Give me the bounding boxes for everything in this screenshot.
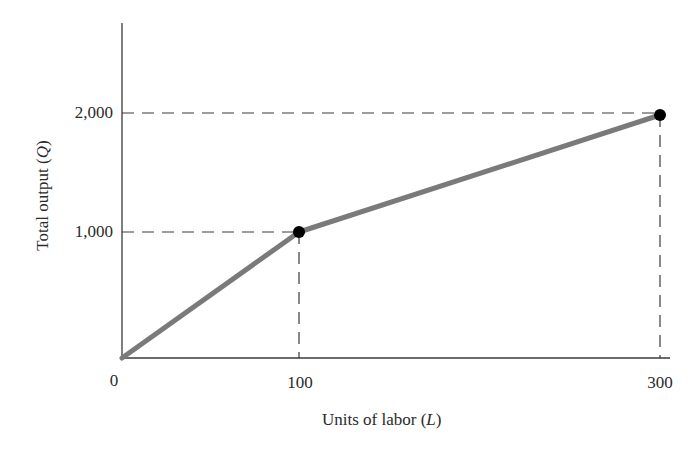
x-tick-300: 300 [630,374,690,391]
y-axis-title-var: Q [33,146,52,158]
y-axis-title-text: Total output ( [33,158,52,250]
x-axis-title: Units of labor (L) [322,411,441,428]
y-axis-title-close: ) [33,140,52,146]
data-point-300-2000 [654,109,666,121]
x-tick-100: 100 [270,374,330,391]
y-tick-2000: 2,000 [33,104,113,121]
x-axis-title-var: L [426,410,435,429]
x-axis-title-text: Units of labor ( [322,410,426,429]
x-tick-0: 0 [84,372,144,389]
total-output-curve [122,115,660,358]
x-axis-title-close: ) [436,410,442,429]
y-axis-title: Total output (Q) [34,126,51,266]
data-point-100-1000 [293,226,305,238]
